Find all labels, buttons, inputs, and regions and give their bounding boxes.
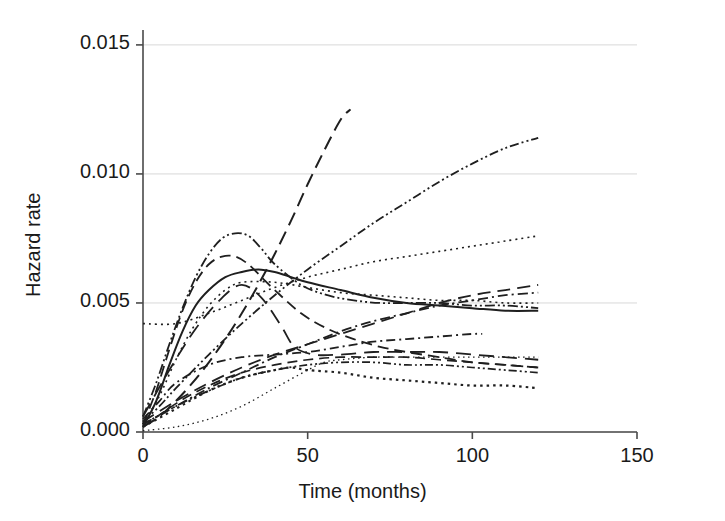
series-line-low-dash-dot-dot: [143, 362, 538, 424]
series-line-rising-dash-long: [143, 285, 538, 422]
chart-plot-area: [0, 0, 725, 521]
series-line-v-shape-long-dash: [143, 285, 538, 417]
x-tick-label-1: 50: [268, 444, 348, 467]
y-axis-label: Hazard rate: [22, 193, 45, 298]
x-tick-label-3: 150: [597, 444, 677, 467]
series-line-plateau-dash-dot: [143, 334, 482, 419]
series-line-peaked-medium-dash: [143, 256, 538, 425]
y-tick-label-1: 0.005: [0, 289, 130, 312]
y-tick-label-0: 0.000: [0, 418, 130, 441]
series-line-steep-long-dash: [143, 109, 350, 426]
series-line-rising-dash-dot-dot: [143, 138, 538, 422]
series-line-bold-dotted-low: [143, 367, 538, 426]
series-line-rising-dash-dot: [143, 293, 538, 425]
x-axis-label: Time (months): [0, 480, 725, 503]
hazard-rate-chart-figure: Hazard rate Time (months) 0.0000.0050.01…: [0, 0, 725, 521]
series-line-fine-dotted-rising: [143, 236, 538, 325]
x-tick-label-2: 100: [432, 444, 512, 467]
y-tick-label-3: 0.015: [0, 31, 130, 54]
y-tick-label-2: 0.010: [0, 160, 130, 183]
x-tick-label-0: 0: [103, 444, 183, 467]
